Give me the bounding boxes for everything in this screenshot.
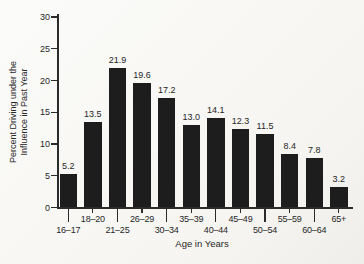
y-axis-title: Percent Driving under the Influence in P… <box>8 47 30 177</box>
bar <box>133 83 151 207</box>
bar <box>207 118 225 208</box>
x-axis-category-label: 40–44 <box>195 225 237 235</box>
y-axis-tick-label: 30 <box>28 12 50 22</box>
y-axis-tick-label: 15 <box>28 107 50 117</box>
y-axis-tick <box>51 48 57 49</box>
x-axis-tick <box>92 208 93 213</box>
x-axis-title: Age in Years <box>142 238 262 249</box>
bar <box>183 125 201 208</box>
x-axis-category-label: 21–25 <box>96 225 138 235</box>
y-axis-tick <box>51 143 57 144</box>
x-axis-category-label: 45–49 <box>219 214 261 224</box>
bar <box>256 134 274 207</box>
y-axis-tick <box>51 207 57 208</box>
bar <box>281 154 299 207</box>
x-axis-tick <box>264 208 265 222</box>
x-axis-category-label: 55–59 <box>269 214 311 224</box>
y-axis-tick <box>51 112 57 113</box>
x-axis-tick <box>191 208 192 213</box>
bar-value-label: 5.2 <box>53 161 83 172</box>
bar <box>158 98 176 207</box>
x-axis-tick <box>215 208 216 222</box>
y-axis-tick <box>51 16 57 17</box>
x-axis-category-label: 50–54 <box>244 225 286 235</box>
bar-value-label: 7.8 <box>299 145 329 156</box>
bar-value-label: 3.2 <box>324 174 354 185</box>
x-axis-tick <box>141 208 142 213</box>
y-axis-tick-label: 10 <box>28 139 50 149</box>
bar <box>109 68 127 207</box>
y-axis-tick <box>51 80 57 81</box>
x-axis-tick <box>338 208 339 213</box>
bar-value-label: 14.1 <box>201 105 231 116</box>
x-axis-category-label: 16–17 <box>47 225 89 235</box>
bar-value-label: 21.9 <box>102 55 132 66</box>
y-axis-tick-label: 20 <box>28 76 50 86</box>
x-axis-tick <box>117 208 118 222</box>
x-axis-category-label: 35–39 <box>170 214 212 224</box>
bar-chart-figure: Percent Driving under the Influence in P… <box>0 0 364 264</box>
x-axis-tick <box>240 208 241 213</box>
x-axis-category-label: 60–64 <box>293 225 335 235</box>
bar <box>232 129 250 207</box>
y-axis-line <box>57 14 59 208</box>
x-axis-tick <box>166 208 167 222</box>
bar <box>84 122 102 208</box>
x-axis-category-label: 30–34 <box>146 225 188 235</box>
y-axis-tick <box>51 175 57 176</box>
y-axis-tick-label: 5 <box>28 171 50 181</box>
bar <box>60 174 78 207</box>
x-axis-category-label: 65+ <box>318 214 360 224</box>
bar-value-label: 13.5 <box>78 109 108 120</box>
bar <box>330 187 348 207</box>
x-axis-tick <box>68 208 69 222</box>
y-axis-tick-label: 25 <box>28 44 50 54</box>
y-axis-tick-label: 0 <box>28 203 50 213</box>
x-axis-category-label: 26–29 <box>121 214 163 224</box>
bar-value-label: 19.6 <box>127 70 157 81</box>
bar-value-label: 17.2 <box>152 85 182 96</box>
x-axis-tick <box>314 208 315 222</box>
y-axis-title-line1: Percent Driving under the <box>8 47 19 177</box>
bar <box>306 158 324 208</box>
bar-value-label: 11.5 <box>250 121 280 132</box>
x-axis-category-label: 18–20 <box>72 214 114 224</box>
x-axis-tick <box>289 208 290 213</box>
